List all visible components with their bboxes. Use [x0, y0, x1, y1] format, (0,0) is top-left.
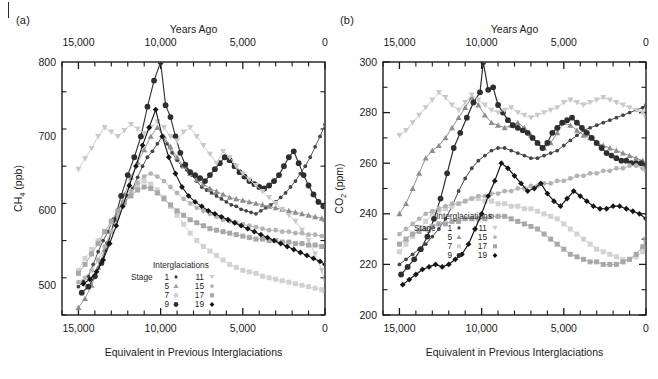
- data-point-square: [509, 204, 514, 209]
- data-point-circle-small: [588, 126, 592, 130]
- data-point-circle-small: [254, 212, 258, 216]
- data-point-diamond: [433, 262, 439, 268]
- data-point-circle-small: [621, 113, 625, 117]
- bottom-axis-title: Equivalent in Previous Interglaciations: [105, 346, 282, 358]
- data-point-square: [404, 237, 409, 242]
- data-point-triangle-up: [396, 211, 402, 216]
- data-point-diamond: [610, 203, 616, 209]
- data-point-square: [515, 219, 520, 224]
- data-point-circle-large: [490, 84, 496, 90]
- data-point-triangle-up: [410, 186, 416, 191]
- data-point-diamond: [630, 208, 636, 214]
- bottom-x-tick-label: 10,000: [145, 322, 177, 334]
- data-point-circle-large: [544, 140, 550, 146]
- data-point-triangle-up: [457, 235, 462, 239]
- data-point-circle-small: [404, 257, 408, 261]
- data-point-square: [555, 216, 560, 221]
- data-point-circle: [260, 226, 265, 231]
- data-point-triangle-down: [456, 108, 462, 113]
- data-point-circle: [267, 228, 272, 233]
- data-point-circle: [634, 163, 639, 168]
- data-point-circle-small: [249, 210, 253, 214]
- data-point-triangle-down: [493, 226, 498, 230]
- data-point-circle-small: [101, 239, 105, 243]
- data-point-diamond: [439, 264, 445, 270]
- legend-title: Interglaciations: [436, 211, 492, 221]
- data-point-circle-small: [294, 179, 298, 183]
- data-point-triangle-up: [442, 135, 448, 140]
- data-point-circle: [509, 189, 514, 194]
- data-point-square: [568, 226, 573, 231]
- data-point-circle-large: [177, 150, 183, 156]
- data-point-square: [496, 214, 501, 219]
- data-point-square: [129, 193, 134, 198]
- data-point-circle-large: [599, 145, 605, 151]
- data-point-circle-large: [485, 87, 491, 93]
- data-point-circle-large: [579, 125, 585, 131]
- data-point-square: [148, 182, 153, 187]
- data-point-circle-small: [318, 135, 322, 139]
- data-point-square: [293, 281, 298, 286]
- data-point-square: [194, 220, 199, 225]
- data-point-circle: [168, 185, 173, 190]
- data-point-circle-small: [490, 149, 494, 153]
- data-point-circle-small: [259, 209, 263, 213]
- data-point-circle-large: [398, 272, 404, 278]
- data-point-square: [142, 179, 147, 184]
- data-point-square: [240, 268, 245, 273]
- data-point-circle-large: [574, 120, 580, 126]
- data-point-circle: [601, 168, 606, 173]
- data-point-triangle-down: [108, 130, 114, 135]
- data-point-circle-small: [555, 149, 559, 153]
- data-point-circle: [621, 166, 626, 171]
- data-point-circle-large: [306, 183, 312, 189]
- data-point-square: [286, 280, 291, 285]
- data-point-circle-small: [284, 191, 288, 195]
- data-point-circle-small: [303, 164, 307, 168]
- data-point-circle-small: [641, 106, 645, 110]
- data-point-circle-large: [604, 150, 610, 156]
- data-point-diamond: [493, 253, 498, 258]
- data-point-circle-small: [529, 156, 533, 160]
- y-tick-label: 600: [38, 204, 56, 216]
- data-point-circle-large: [276, 172, 282, 178]
- data-point-square: [168, 202, 173, 207]
- data-point-circle: [148, 171, 153, 176]
- data-point-square: [561, 221, 566, 226]
- data-point-circle-large: [569, 115, 575, 121]
- data-point-triangle-up: [456, 115, 462, 120]
- data-point-square: [109, 219, 114, 224]
- data-point-circle: [175, 191, 180, 196]
- data-point-circle-large: [131, 154, 137, 160]
- data-point-square: [614, 254, 619, 259]
- data-point-diamond: [251, 229, 257, 235]
- data-point-square: [210, 293, 214, 297]
- bottom-x-tick-label: 15,000: [383, 322, 415, 334]
- data-point-circle-large: [79, 290, 85, 296]
- data-point-square: [502, 214, 507, 219]
- data-point-square: [83, 256, 88, 261]
- data-point-circle: [293, 231, 298, 236]
- data-point-circle-large: [145, 104, 151, 110]
- data-point-circle: [404, 227, 409, 232]
- data-point-diamond: [297, 250, 303, 256]
- data-point-square: [542, 232, 547, 237]
- data-point-diamond: [153, 107, 159, 113]
- data-point-circle-small: [437, 227, 441, 231]
- data-point-square: [535, 226, 540, 231]
- data-point-circle: [568, 176, 573, 181]
- data-point-square: [240, 234, 245, 239]
- data-point-square: [299, 241, 304, 246]
- data-point-diamond: [426, 264, 432, 270]
- data-point-triangle-down: [396, 133, 402, 138]
- data-point-circle: [306, 232, 311, 237]
- data-point-circle: [83, 275, 88, 280]
- data-point-square: [502, 201, 507, 206]
- data-point-square: [588, 259, 593, 264]
- data-point-triangle-up: [227, 194, 233, 199]
- data-point-circle: [561, 179, 566, 184]
- data-point-diamond: [317, 259, 323, 265]
- data-point-circle-large: [554, 125, 560, 131]
- bottom-x-tick-label: 5,000: [551, 322, 577, 334]
- data-point-circle-small: [509, 149, 513, 153]
